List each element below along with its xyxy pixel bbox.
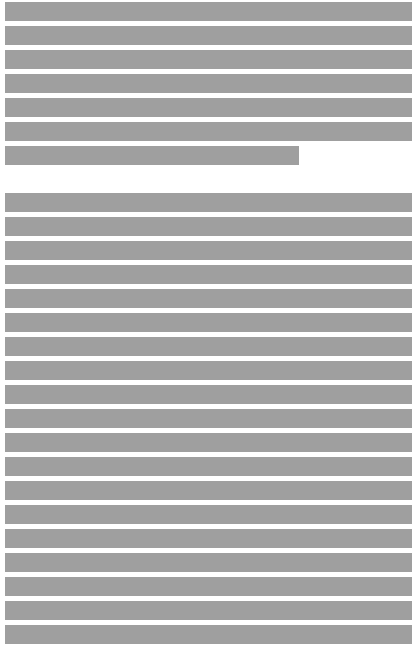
redacted-line: [5, 265, 412, 284]
redacted-line: [5, 361, 412, 380]
redacted-line: [5, 481, 412, 500]
redacted-line: [5, 385, 412, 404]
redacted-line: [5, 409, 412, 428]
redacted-document-page: [0, 0, 417, 645]
redacted-line: [5, 625, 412, 644]
redacted-line: [5, 74, 412, 93]
redacted-line-last: [5, 146, 299, 165]
paragraph-2: [5, 193, 412, 645]
redacted-line: [5, 50, 412, 69]
redacted-line: [5, 217, 412, 236]
redacted-line: [5, 122, 412, 141]
redacted-line: [5, 577, 412, 596]
redacted-line: [5, 529, 412, 548]
redacted-line: [5, 98, 412, 117]
redacted-line: [5, 433, 412, 452]
redacted-line: [5, 193, 412, 212]
redacted-line: [5, 241, 412, 260]
redacted-line: [5, 337, 412, 356]
redacted-line: [5, 289, 412, 308]
redacted-line: [5, 2, 412, 21]
redacted-line: [5, 505, 412, 524]
paragraph-1: [5, 2, 412, 170]
redacted-line: [5, 457, 412, 476]
redacted-line: [5, 26, 412, 45]
redacted-line: [5, 553, 412, 572]
redacted-line: [5, 601, 412, 620]
redacted-line: [5, 313, 412, 332]
